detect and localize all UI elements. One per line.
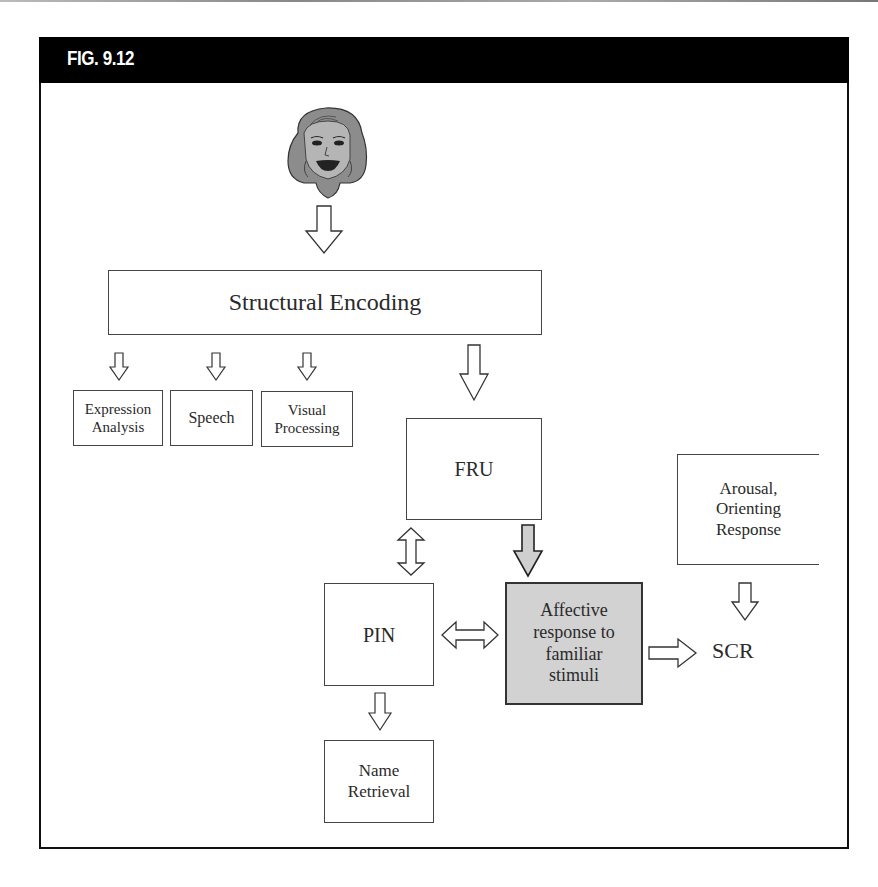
down-arrow-icon: [304, 205, 344, 255]
right-arrow-icon: [648, 638, 698, 668]
speech-label: Speech: [188, 408, 234, 427]
down-arrow-icon: [368, 692, 392, 732]
figure-title: FIG. 9.12: [67, 47, 134, 70]
visual-processing-label: Visual Processing: [275, 401, 340, 437]
down-arrow-icon: [459, 344, 489, 402]
fru-box: FRU: [406, 418, 542, 520]
down-arrow-icon: [731, 582, 759, 622]
bidirectional-horizontal-arrow-icon: [441, 620, 499, 650]
pin-label: PIN: [363, 623, 395, 647]
speech-box: Speech: [170, 390, 253, 446]
expression-analysis-label: Expression Analysis: [85, 400, 152, 436]
figure-header: FIG. 9.12: [39, 37, 849, 83]
affective-response-box: Affective response to familiar stimuli: [505, 582, 643, 705]
pin-box: PIN: [324, 583, 434, 686]
arousal-orienting-label: Arousal, Orienting Response: [716, 479, 781, 540]
face-icon: [278, 103, 376, 201]
down-arrow-icon: [108, 352, 130, 382]
expression-analysis-box: Expression Analysis: [73, 390, 163, 446]
down-arrow-icon: [205, 352, 227, 382]
visual-processing-box: Visual Processing: [261, 391, 353, 447]
structural-encoding-label: Structural Encoding: [229, 288, 422, 317]
affective-response-label: Affective response to familiar stimuli: [533, 600, 614, 686]
name-retrieval-box: Name Retrieval: [324, 740, 434, 823]
name-retrieval-label: Name Retrieval: [348, 761, 410, 802]
arousal-orienting-box: Arousal, Orienting Response: [677, 454, 819, 565]
down-arrow-icon: [296, 352, 318, 382]
gray-down-arrow-icon: [513, 524, 543, 578]
page-edge-line: [0, 0, 878, 2]
fru-label: FRU: [455, 457, 494, 481]
bidirectional-vertical-arrow-icon: [396, 527, 426, 576]
structural-encoding-box: Structural Encoding: [108, 270, 542, 335]
scr-label: SCR: [712, 638, 754, 664]
